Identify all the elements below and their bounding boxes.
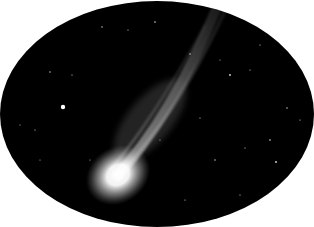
comet-photo bbox=[0, 0, 314, 227]
